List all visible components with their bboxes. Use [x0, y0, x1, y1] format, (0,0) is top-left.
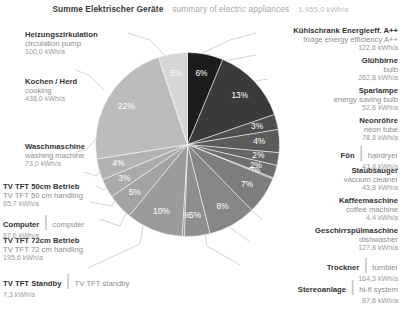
pie-slice-percent: 4%	[112, 158, 125, 168]
label-dishwasher: Geschirrspülmaschine dishwasher 127,8 kW…	[315, 226, 398, 252]
label-circulation-pump: Heizungszirkulation circulation pump 100…	[25, 30, 98, 56]
pie-slice-percent: 5%	[189, 210, 202, 220]
pie-slice-percent: 5%	[170, 68, 183, 78]
pie-slice-percent: 7%	[241, 179, 254, 189]
pie-chart: 6%13%3%4%2%2%0%7%8%5%0%10%5%3%4%22%5%	[95, 52, 280, 237]
label-coffee-machine: Kaffeemaschine coffee machine 4,4 kWh/a	[339, 196, 398, 222]
label-tv-tft-standby: TV TFT Standby | TV TFT standby 7,3 kWh/…	[3, 272, 129, 299]
pie-slice-percent: 3%	[251, 121, 264, 131]
label-cooking: Kochen / Herd cooking 438,0 kWh/a	[25, 77, 77, 103]
pie-slice-percent: 10%	[153, 206, 170, 216]
label-bulb: Glühbirne bulb 262,8 kWh/a	[358, 56, 398, 82]
pie-slice-percent: 3%	[118, 173, 131, 183]
label-tv-tft-50cm: TV TFT 50cm Betrieb TV TFT 50 cm handlin…	[3, 182, 83, 208]
label-fridge: Kühlschrank Energieeff. A++ fridge energ…	[293, 26, 398, 52]
chart-title-en: summary of electric appliances	[172, 4, 289, 14]
pie-slice-percent: 6%	[195, 68, 208, 78]
label-energy-saving-bulb: Sparlampe energy saving bulb 52,6 kWh/a	[333, 86, 398, 112]
pie-slice-percent: 22%	[118, 101, 135, 111]
chart-header: Summe Elektrischer Geräte summary of ele…	[0, 4, 401, 14]
label-hifi-system: Stereoanlage | hi-fi system 87,6 kWh/a	[298, 278, 398, 305]
pie-slice-percent: 2%	[252, 150, 265, 160]
label-neon-tube: Neonröhre neon tube 78,8 kWh/a	[359, 116, 398, 142]
label-tv-tft-72cm: TV TFT 72cm Betrieb TV TFT 72 cm handlin…	[3, 236, 83, 262]
chart-total-value: 1.955,0 kWh/a	[298, 5, 348, 14]
label-washing-machine: Waschmaschine washing machine 73,0 kWh/a	[25, 142, 85, 168]
pie-slice-percent: 13%	[231, 90, 248, 100]
pie-slice-percent: 5%	[129, 187, 142, 197]
chart-page: Summe Elektrischer Geräte summary of ele…	[0, 0, 401, 311]
label-vacuum-cleaner: Staubsauger vacuum cleaner 43,8 kWh/a	[344, 166, 398, 192]
chart-title-de: Summe Elektrischer Geräte	[52, 4, 163, 14]
pie-svg: 6%13%3%4%2%2%0%7%8%5%0%10%5%3%4%22%5%	[95, 52, 280, 237]
pie-slice-percent: 4%	[253, 136, 266, 146]
pie-slice-percent: 8%	[217, 201, 230, 211]
